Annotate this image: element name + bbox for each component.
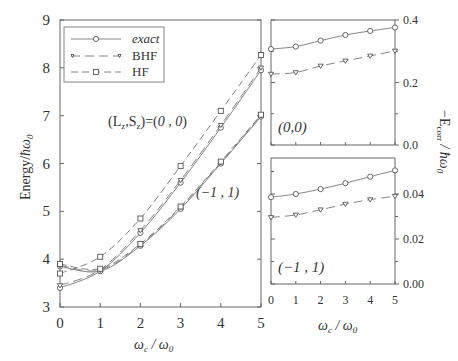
circle-marker-icon: [368, 174, 373, 179]
circle-marker-icon: [268, 195, 273, 200]
triangle-marker-icon: [268, 216, 273, 220]
panel-label-00: (0,0): [278, 119, 307, 136]
y-tick-label: 4: [43, 251, 51, 267]
triangle-marker-icon: [368, 198, 373, 202]
right-y-axis-label: −Ecorr / ħω0: [435, 110, 452, 174]
series-line-bhf: [271, 51, 395, 74]
y-tick-label: 0.02: [403, 232, 424, 246]
square-marker-icon: [218, 159, 223, 164]
square-marker-icon: [138, 241, 143, 246]
triangle-marker-icon: [343, 202, 348, 206]
circle-marker-icon: [93, 36, 98, 41]
circle-marker-icon: [268, 46, 273, 51]
y-tick-label: 0.4: [403, 13, 418, 27]
lower-right-ticks: 0123450.000.020.04: [268, 172, 424, 308]
legend-label-exact: exact: [132, 31, 160, 46]
square-marker-icon: [218, 108, 223, 113]
y-tick-label: 3: [43, 299, 51, 315]
square-marker-icon: [259, 52, 264, 57]
x-tick-label: 0: [56, 315, 64, 331]
x-tick-label: 0: [268, 293, 274, 307]
upper-right-panel: 0.00.20.4 (0,0): [268, 13, 418, 152]
x-tick-label: 2: [318, 293, 324, 307]
triangle-marker-icon: [293, 71, 298, 75]
series-line-bhf: [60, 68, 261, 286]
triangle-marker-icon: [318, 208, 323, 212]
circle-marker-icon: [368, 28, 373, 33]
circle-marker-icon: [318, 186, 323, 191]
triangle-marker-icon: [392, 194, 397, 198]
circle-marker-icon: [343, 181, 348, 186]
y-tick-label: 0.0: [403, 138, 418, 152]
triangle-marker-icon: [293, 213, 298, 217]
y-tick-label: 8: [43, 60, 51, 76]
x-tick-label: 1: [96, 315, 104, 331]
x-tick-label: 3: [177, 315, 185, 331]
legend-label-bhf: BHF: [132, 48, 157, 63]
x-tick-label: 3: [342, 293, 348, 307]
lower-right-series: [268, 168, 397, 220]
series-line-bhf: [271, 196, 395, 217]
series-line-exact: [60, 70, 261, 288]
circle-marker-icon: [318, 38, 323, 43]
square-marker-icon: [58, 271, 63, 276]
square-marker-icon: [259, 112, 264, 117]
triangle-marker-icon: [318, 64, 323, 68]
main-series: [57, 52, 263, 290]
square-marker-icon: [178, 163, 183, 168]
x-tick-label: 4: [217, 315, 225, 331]
figure: 012345 3456789 exact BHF HF (Lz,Sz)=(0 ,…: [0, 0, 458, 361]
circle-marker-icon: [293, 191, 298, 196]
y-tick-label: 6: [43, 156, 51, 172]
x-tick-label: 5: [257, 315, 265, 331]
y-tick-label: 5: [43, 203, 51, 219]
x-tick-label: 4: [367, 293, 373, 307]
upper-right-series: [268, 25, 397, 77]
main-x-axis-label: ωc / ω0: [134, 337, 174, 354]
lower-right-panel: 0123450.000.020.04 (−1 , 1) ωc / ω0: [268, 158, 424, 335]
square-marker-icon: [178, 204, 183, 209]
triangle-marker-icon: [268, 72, 273, 76]
y-tick-label: 9: [43, 12, 51, 28]
x-tick-label: 1: [293, 293, 299, 307]
legend-label-hf: HF: [132, 64, 149, 79]
square-marker-icon: [98, 266, 103, 271]
series-line-hf: [60, 55, 261, 274]
right-x-axis-label: ωc / ω0: [318, 318, 358, 335]
circle-marker-icon: [392, 25, 397, 30]
x-tick-label: 5: [392, 293, 398, 307]
y-tick-label: 0.04: [403, 187, 424, 201]
square-marker-icon: [94, 70, 99, 75]
y-tick-label: 0.2: [403, 76, 418, 90]
legend: exact BHF HF: [64, 27, 164, 82]
main-panel: 012345 3456789 exact BHF HF (Lz,Sz)=(0 ,…: [18, 12, 265, 354]
circle-marker-icon: [343, 32, 348, 37]
y-tick-label: 7: [43, 108, 51, 124]
triangle-marker-icon: [392, 49, 397, 53]
square-marker-icon: [98, 254, 103, 259]
main-y-axis-label: Energy/ħω0: [18, 134, 35, 200]
x-tick-label: 2: [137, 315, 145, 331]
circle-marker-icon: [293, 44, 298, 49]
square-marker-icon: [138, 216, 143, 221]
annotation-state-m11: (−1 , 1): [196, 185, 240, 201]
panel-label-m11: (−1 , 1): [278, 259, 324, 276]
circle-marker-icon: [392, 168, 397, 173]
square-marker-icon: [58, 261, 63, 266]
series-line-exact: [271, 170, 395, 197]
triangle-marker-icon: [368, 54, 373, 58]
triangle-marker-icon: [343, 59, 348, 63]
series-line-exact: [271, 28, 395, 50]
annotation-state-00: (Lz,Sz)=(0 , 0): [108, 114, 187, 131]
y-tick-label: 0.00: [403, 277, 424, 291]
